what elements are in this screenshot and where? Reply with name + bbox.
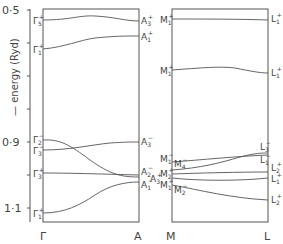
x-label-m: M	[166, 230, 176, 243]
label-l2-plus-low: L2+	[271, 192, 282, 206]
y-axis	[27, 9, 30, 222]
label-a1-plus: A1+	[141, 29, 153, 43]
label-gamma1-plus-low: Γ1+	[33, 206, 44, 220]
panel-gamma-a-bands	[43, 16, 139, 213]
panel-gamma-a-frame	[43, 9, 139, 222]
label-l1-minus: L1−	[260, 152, 271, 166]
label-a1-minus: A1−	[141, 177, 153, 191]
y-tick-0-9: 0·9	[2, 136, 20, 149]
m-symmetry-labels: M1+ M1+ M1− M4− M2+ M1+ M2−	[160, 12, 188, 196]
label-gamma3-minus: Γ3−	[33, 143, 44, 157]
panel-m-l-frame	[172, 9, 268, 222]
label-l1-plus-low: L1+	[271, 171, 282, 185]
label-m4-minus: M4−	[174, 156, 188, 170]
label-a3-minus: A3−	[141, 134, 153, 148]
label-l1-plus-mid: L1+	[271, 65, 282, 79]
label-l1-plus: L1+	[271, 11, 282, 25]
label-m1-minus: M1−	[160, 151, 174, 165]
label-l3-minus: L3−	[260, 139, 271, 153]
band-structure-chart: 0·5 0·9 1·1 — energy (Ryd) Γ5+ Γ1+ Γ2− Γ…	[0, 0, 283, 244]
label-a3-plus: A3+	[141, 13, 153, 27]
label-m1-plus-mid: M1+	[160, 63, 174, 77]
x-label-gamma: Γ	[40, 230, 47, 243]
y-tick-1-1: 1·1	[4, 202, 22, 215]
label-m1-plus-low: M1+	[160, 177, 174, 191]
gamma-symmetry-labels: Γ5+ Γ1+ Γ2− Γ3− Γ3+ Γ1+	[33, 13, 44, 220]
y-axis-title: — energy (Ryd)	[9, 38, 20, 116]
label-m1-plus: M1+	[160, 12, 174, 26]
x-label-l: L	[264, 230, 271, 243]
label-gamma1-plus: Γ1+	[33, 42, 44, 56]
y-tick-0-5: 0·5	[2, 4, 20, 17]
a-symmetry-labels: A3+ A1+ A3− A2− A3+ A1−	[141, 13, 162, 191]
panel-m-l-bands	[172, 19, 268, 200]
label-gamma3-plus: Γ3+	[33, 166, 44, 180]
x-label-a: A	[134, 230, 142, 243]
label-m2-minus: M2−	[174, 182, 188, 196]
l-symmetry-labels: L1+ L1+ L3− L1− L2+ L1+ L2+	[260, 11, 282, 206]
label-gamma5-plus: Γ5+	[33, 13, 44, 27]
